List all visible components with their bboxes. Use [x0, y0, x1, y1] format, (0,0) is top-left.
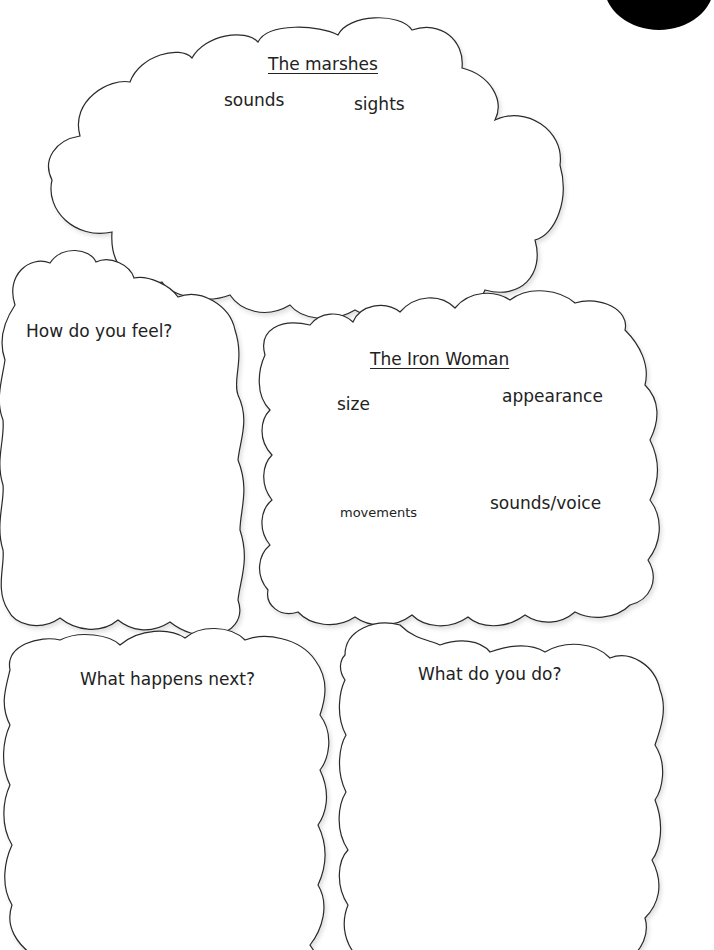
marshes-title: The marshes [268, 56, 378, 73]
iron-woman-prompt-sounds-voice: sounds/voice [490, 495, 601, 512]
iron-woman-prompt-size: size [337, 396, 370, 413]
iron-woman-prompt-movements: movements [340, 506, 417, 519]
next-title: What happens next? [80, 671, 255, 688]
iron-woman-title: The Iron Woman [370, 351, 509, 368]
feel-cloud-shape [0, 250, 244, 634]
iron-woman-cloud-shape [259, 291, 659, 626]
marshes-prompt-sounds: sounds [224, 92, 284, 109]
do-title: What do you do? [418, 666, 562, 683]
marshes-prompt-sights: sights [354, 96, 405, 113]
iron-woman-prompt-appearance: appearance [502, 388, 603, 405]
feel-title: How do you feel? [26, 323, 172, 340]
